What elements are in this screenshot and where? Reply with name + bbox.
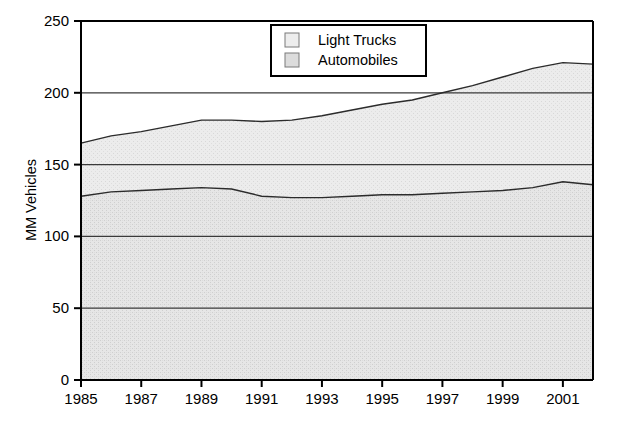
- chart-legend: Light Trucks Automobiles: [271, 25, 426, 76]
- y-tick-label-50: 50: [52, 299, 69, 316]
- area-automobiles: [81, 182, 593, 380]
- legend-swatch-automobiles: [285, 53, 299, 67]
- x-tick-label-1993: 1993: [305, 390, 338, 407]
- legend-label-automobiles: Automobiles: [318, 52, 398, 68]
- y-tick-label-200: 200: [44, 84, 69, 101]
- x-tick-label-1987: 1987: [125, 390, 158, 407]
- legend-swatch-light-trucks: [285, 33, 299, 47]
- y-tick-label-100: 100: [44, 227, 69, 244]
- x-tick-label-1999: 1999: [486, 390, 519, 407]
- x-tick-label-1989: 1989: [185, 390, 218, 407]
- y-tick-label-150: 150: [44, 156, 69, 173]
- x-tick-label-1991: 1991: [245, 390, 278, 407]
- x-axis-tick-labels: 198519871989199119931995199719992001: [64, 390, 579, 407]
- x-tick-label-1997: 1997: [426, 390, 459, 407]
- y-tick-label-0: 0: [61, 371, 69, 388]
- chart-container: 050100150200250 198519871989199119931995…: [0, 0, 618, 428]
- y-axis-title: MM Vehicles: [23, 159, 39, 241]
- x-tick-label-1985: 1985: [64, 390, 97, 407]
- legend-label-light-trucks: Light Trucks: [318, 32, 396, 48]
- x-tick-label-2001: 2001: [546, 390, 579, 407]
- stacked-area-chart: 050100150200250 198519871989199119931995…: [0, 0, 618, 428]
- x-tick-label-1995: 1995: [365, 390, 398, 407]
- y-tick-label-250: 250: [44, 12, 69, 29]
